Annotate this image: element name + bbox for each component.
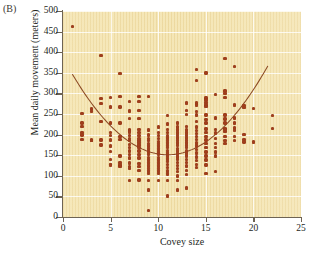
regression-curve xyxy=(63,11,301,217)
scatter-point xyxy=(109,163,112,166)
scatter-point xyxy=(80,133,83,136)
scatter-point xyxy=(118,154,121,157)
scatter-point xyxy=(137,178,140,181)
y-axis-tick-label: 150 xyxy=(18,150,58,160)
scatter-point xyxy=(242,133,245,136)
x-axis-label: Covey size xyxy=(63,236,301,247)
scatter-point xyxy=(271,114,274,117)
y-axis-tick-label: 350 xyxy=(18,68,58,78)
scatter-point xyxy=(109,138,112,141)
x-axis-tick xyxy=(158,217,159,222)
scatter-point xyxy=(233,139,236,142)
scatter-point xyxy=(242,106,245,109)
scatter-point xyxy=(195,113,198,116)
y-axis-tick-label: 450 xyxy=(18,27,58,37)
scatter-point xyxy=(99,120,102,123)
scatter-point xyxy=(214,116,217,119)
scatter-point xyxy=(233,116,236,119)
scatter-point xyxy=(233,121,236,124)
scatter-point xyxy=(223,130,226,133)
scatter-point xyxy=(80,138,83,141)
x-axis-tick-label: 0 xyxy=(51,223,75,233)
x-axis-tick xyxy=(111,217,112,222)
scatter-point xyxy=(137,156,140,159)
scatter-point xyxy=(214,154,217,157)
y-axis-tick-label: 200 xyxy=(18,130,58,140)
x-axis-tick xyxy=(206,217,207,222)
scatter-point xyxy=(204,71,207,74)
y-axis-tick-label: 250 xyxy=(18,109,58,119)
scatter-point xyxy=(223,92,226,95)
x-axis-tick xyxy=(253,217,254,222)
scatter-point xyxy=(176,188,179,191)
x-axis-tick xyxy=(301,217,302,222)
scatter-point xyxy=(204,142,207,145)
scatter-point xyxy=(214,150,217,153)
scatter-point xyxy=(223,142,226,145)
scatter-point xyxy=(204,105,207,108)
scatter-point xyxy=(109,105,112,108)
scatter-point xyxy=(204,113,207,116)
scatter-point xyxy=(233,103,236,106)
plot-area xyxy=(63,11,301,217)
y-axis-tick-label: 50 xyxy=(18,191,58,201)
scatter-point xyxy=(157,125,160,128)
scatter-point xyxy=(195,79,198,82)
scatter-point xyxy=(204,131,207,134)
scatter-point xyxy=(195,103,198,106)
scatter-point xyxy=(214,131,217,134)
panel-label: (B) xyxy=(3,3,16,15)
scatter-point xyxy=(204,150,207,153)
scatter-point xyxy=(195,120,198,123)
scatter-point xyxy=(204,121,207,124)
scatter-point xyxy=(99,143,102,146)
scatter-point xyxy=(147,188,150,191)
scatter-point xyxy=(204,154,207,157)
scatter-point xyxy=(118,138,121,141)
x-axis-tick-label: 10 xyxy=(146,223,170,233)
scatter-point xyxy=(118,105,121,108)
x-axis-tick-label: 5 xyxy=(99,223,123,233)
scatter-point xyxy=(242,140,245,143)
x-axis-tick-label: 15 xyxy=(194,223,218,233)
scatter-point xyxy=(233,135,236,138)
scatter-point xyxy=(223,135,226,138)
x-axis-tick xyxy=(63,217,64,222)
scatter-point xyxy=(137,169,140,172)
scatter-point xyxy=(137,117,140,120)
scatter-point xyxy=(223,121,226,124)
y-axis-tick-label: 300 xyxy=(18,88,58,98)
scatter-point xyxy=(223,113,226,116)
scatter-point xyxy=(176,121,179,124)
scatter-point xyxy=(223,117,226,120)
scatter-point xyxy=(252,140,255,143)
x-axis-tick-label: 20 xyxy=(241,223,265,233)
scatter-point xyxy=(99,54,102,57)
y-axis-tick-label: 500 xyxy=(18,6,58,16)
y-axis-tick-label: 100 xyxy=(18,171,58,181)
scatter-point xyxy=(80,112,83,115)
y-axis-tick-label: 400 xyxy=(18,47,58,57)
y-axis-tick-label: 0 xyxy=(18,212,58,222)
scatter-point xyxy=(223,96,226,99)
scatter-point xyxy=(204,158,207,161)
scatter-point xyxy=(109,121,112,124)
figure-container: (B) Mean daily movement (meters) Covey s… xyxy=(0,0,316,254)
scatter-point xyxy=(99,138,102,141)
scatter-point xyxy=(252,107,255,110)
scatter-point xyxy=(204,163,207,166)
scatter-point xyxy=(118,121,121,124)
x-axis-tick-label: 25 xyxy=(289,223,313,233)
scatter-point xyxy=(99,97,102,100)
scatter-point xyxy=(176,174,179,177)
